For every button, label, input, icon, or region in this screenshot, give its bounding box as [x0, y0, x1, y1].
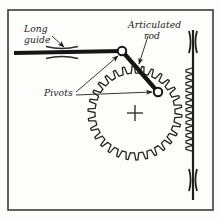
long-guide-bar	[14, 51, 122, 53]
label-pivots: Pivots	[43, 87, 73, 98]
label-articulated-rod: Articulatedrod	[127, 19, 181, 41]
gear-center-crosshair	[127, 105, 143, 121]
mechanism-figure: LongguideArticulatedrodPivots	[0, 0, 222, 220]
leader-pivot-lower	[76, 92, 152, 95]
leader-long-guide	[52, 36, 64, 47]
label-long-guide: Longguide	[23, 23, 51, 45]
leader-pivot-upper	[76, 56, 118, 92]
pivot-lower	[154, 88, 162, 96]
pivot-upper	[118, 47, 126, 55]
mechanism-diagram: LongguideArticulatedrodPivots	[0, 0, 222, 220]
vertical-rack-teeth	[186, 68, 192, 151]
